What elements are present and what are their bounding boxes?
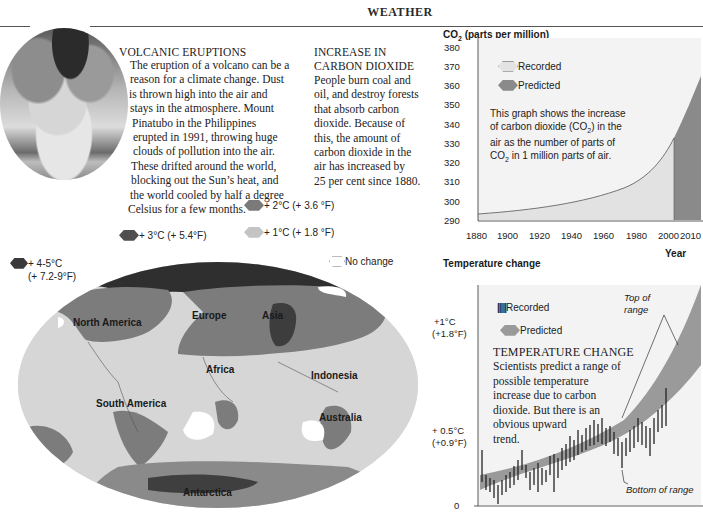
temp-line: obvious upward [493, 417, 633, 432]
co2-xtick: 2000 [658, 230, 679, 241]
co2-line: that absorb carbon [314, 102, 444, 116]
co2-line: air has increased by [314, 159, 444, 173]
co2-line: carbon dioxide in the [314, 145, 444, 159]
co2-xtick: 1880 [466, 230, 487, 241]
temp-body: Scientists predict a range of possible t… [493, 359, 633, 446]
co2-xtick: 1960 [593, 230, 614, 241]
co2-xtick: 1980 [626, 230, 647, 241]
co2-xtick: 1900 [497, 230, 518, 241]
temp-tick-label: (+0.9°F) [432, 437, 467, 449]
co2-legend-predicted: Predicted [498, 75, 560, 93]
top-of-range-line: Top of [624, 292, 650, 304]
co2-heading-line: INCREASE IN [314, 45, 414, 59]
co2-ylabel-prefix: CO [443, 29, 458, 40]
temp-tick-0: 0 [454, 500, 459, 511]
recorded-bars-icon: ||||| [497, 302, 506, 313]
temp-chart-ylabel: Temperature change [443, 258, 541, 269]
co2-line: this, the amount of [314, 131, 444, 145]
volcanic-body: The eruption of a volcano can be a reaso… [126, 58, 306, 216]
temp-tick-label: +1°C [434, 316, 467, 328]
co2-note-line: CO2 in 1 million parts of air. [490, 150, 626, 167]
legend-label-2c: + 2°C (+ 3.6 °F) [264, 200, 334, 211]
temp-legend-recorded: |||||Recorded [497, 297, 549, 315]
co2-ytick: 380 [444, 42, 460, 53]
co2-ytick: 350 [444, 99, 460, 110]
world-map: North America Europe Asia Africa Indones… [18, 262, 418, 508]
co2-legend-swatch-predicted [498, 80, 518, 91]
co2-line: People burn coal and [314, 73, 444, 87]
temp-tick-05c: + 0.5°C (+0.9°F) [432, 425, 467, 449]
co2-note-line: of carbon dioxide (CO2) in the [490, 121, 626, 138]
co2-legend-label-predicted: Predicted [518, 80, 560, 91]
co2-note-part: CO [490, 150, 505, 161]
map-label-north-america: North America [73, 317, 142, 328]
legend-label-4-5c: + 4-5°C [28, 258, 62, 269]
legend-2c: + 2°C (+ 3.6 °F) [244, 195, 334, 213]
volcanic-line: blocking out the Sun’s heat, and [131, 173, 306, 187]
legend-3c: + 3°C (+ 5.4°F) [119, 225, 206, 243]
temp-line: possible temperature [493, 374, 633, 389]
co2-chart-note: This graph shows the increase of carbon … [490, 108, 626, 166]
legend-label-no-change: No change [345, 256, 393, 267]
temp-line: dioxide. But there is an [493, 403, 633, 418]
map-label-asia: Asia [262, 310, 283, 321]
legend-swatch-4-5c [10, 258, 28, 269]
co2-ytick: 360 [444, 80, 460, 91]
co2-ytick: 310 [444, 176, 460, 187]
volcanic-line: Pinatubo in the Philippines [132, 116, 306, 130]
map-label-south-america: South America [96, 398, 166, 409]
co2-ytick: 300 [444, 196, 460, 207]
co2-note-part: in 1 million parts of air. [509, 150, 611, 161]
co2-line: dioxide. Because of [314, 116, 444, 130]
co2-legend-swatch-recorded [498, 61, 518, 72]
temp-tick-1c: +1°C (+1.8°F) [432, 316, 467, 340]
map-label-europe: Europe [192, 310, 226, 321]
legend-swatch-3c [119, 230, 139, 241]
co2-ytick: 320 [444, 157, 460, 168]
map-label-antarctica: Antarctica [183, 487, 232, 498]
top-of-range-line: range [624, 304, 650, 316]
volcanic-line: is thrown high into the air and [129, 87, 306, 101]
world-map-graphic [18, 262, 418, 508]
bottom-of-range-label: Bottom of range [626, 484, 694, 495]
co2-chart-xlabel: Year [665, 248, 686, 259]
temp-legend-swatch-predicted [500, 325, 520, 336]
legend-no-change: No change [329, 251, 393, 269]
temp-heading: TEMPERATURE CHANGE [493, 345, 634, 359]
legend-label-4-5f: (+ 7.2-9°F) [28, 271, 76, 282]
co2-ytick: 290 [444, 215, 460, 226]
legend-1c: + 1°C (+ 1.8 °F) [244, 222, 334, 240]
top-of-range-label: Top of range [624, 292, 650, 316]
header-rule [90, 26, 703, 27]
volcanic-line: reason for a climate change. Dust [130, 72, 306, 86]
co2-xtick: 1940 [561, 230, 582, 241]
volcanic-line: The eruption of a volcano can be a [130, 58, 306, 72]
co2-legend-label-recorded: Recorded [518, 61, 561, 72]
legend-4-5c: + 4-5°C (+ 7.2-9°F) [10, 253, 76, 282]
co2-xtick: 2010 [680, 230, 701, 241]
co2-ytick: 370 [444, 61, 460, 72]
temp-legend-label-predicted: Predicted [520, 325, 562, 336]
co2-line: oil, and destroy forests [314, 87, 444, 101]
volcanic-line: These drifted around the world, [131, 159, 306, 173]
legend-swatch-2c [244, 200, 264, 211]
volcanic-heading: VOLCANIC ERUPTIONS [119, 45, 246, 59]
co2-note-line: air as the number of parts of [490, 137, 626, 150]
temp-tick-label: + 0.5°C [432, 425, 467, 437]
volcanic-line: clouds of pollution into the air. [133, 144, 306, 158]
volcanic-line: erupted in 1991, throwing huge [133, 130, 306, 144]
co2-note-part: ) in the [591, 121, 622, 132]
co2-note-part: of carbon dioxide (CO [490, 121, 587, 132]
co2-note-line: This graph shows the increase [490, 108, 626, 121]
legend-swatch-no-change [329, 256, 345, 267]
volcanic-line: stays in the atmosphere. Mount [130, 101, 306, 115]
co2-heading-line: CARBON DIOXIDE [314, 59, 414, 73]
temp-line: Scientists predict a range of [493, 359, 633, 374]
co2-body: People burn coal and oil, and destroy fo… [314, 73, 444, 188]
page-title: WEATHER [300, 5, 500, 20]
volcano-photo [0, 28, 128, 180]
legend-swatch-1c [244, 227, 264, 238]
temp-legend-label-recorded: Recorded [506, 302, 549, 313]
temp-tick-label: (+1.8°F) [432, 328, 467, 340]
legend-label-1c: + 1°C (+ 1.8 °F) [264, 227, 334, 238]
